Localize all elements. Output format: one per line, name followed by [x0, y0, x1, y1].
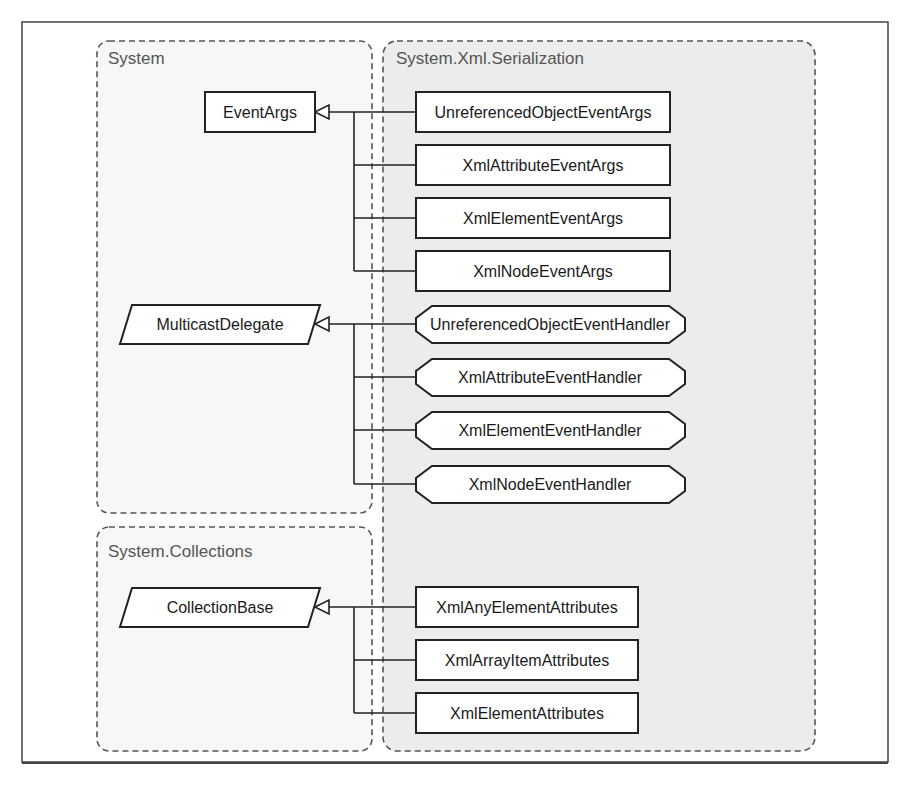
node-multicastdelegate[interactable]: MulticastDelegate [120, 305, 320, 344]
node-label: XmlAnyElementAttributes [436, 599, 617, 616]
node-unreferencedobjecteventhandler[interactable]: UnreferencedObjectEventHandler [416, 306, 685, 343]
node-label: MulticastDelegate [156, 316, 283, 333]
namespace-title-serialization: System.Xml.Serialization [396, 49, 584, 68]
node-xmlattributeeventhandler[interactable]: XmlAttributeEventHandler [416, 359, 685, 396]
namespace-title-system: System [108, 49, 165, 68]
node-label: EventArgs [223, 104, 297, 121]
node-xmlarrayitemattributes[interactable]: XmlArrayItemAttributes [416, 640, 638, 680]
node-label: XmlNodeEventHandler [469, 476, 632, 493]
node-label: XmlElementEventHandler [458, 422, 642, 439]
node-label: UnreferencedObjectEventArgs [435, 104, 652, 121]
node-label: UnreferencedObjectEventHandler [430, 316, 671, 333]
node-xmlnodeeventhandler[interactable]: XmlNodeEventHandler [416, 466, 685, 503]
node-xmlattributeeventargs[interactable]: XmlAttributeEventArgs [416, 145, 670, 185]
node-label: CollectionBase [167, 599, 274, 616]
node-xmlanyelementattributes[interactable]: XmlAnyElementAttributes [416, 587, 638, 627]
namespace-title-collections: System.Collections [108, 542, 253, 561]
node-unreferencedobjecteventargs[interactable]: UnreferencedObjectEventArgs [416, 92, 670, 132]
node-xmlelementeventargs[interactable]: XmlElementEventArgs [416, 198, 670, 238]
node-collectionbase[interactable]: CollectionBase [120, 588, 320, 627]
node-label: XmlAttributeEventHandler [458, 369, 643, 386]
node-xmlnodeeventargs[interactable]: XmlNodeEventArgs [416, 251, 670, 291]
namespace-system-collections: System.Collections [97, 527, 372, 751]
node-label: XmlNodeEventArgs [473, 263, 613, 280]
node-label: XmlElementEventArgs [463, 210, 623, 227]
node-eventargs[interactable]: EventArgs [205, 92, 315, 132]
node-label: XmlAttributeEventArgs [463, 157, 624, 174]
node-xmlelementeventhandler[interactable]: XmlElementEventHandler [416, 412, 685, 449]
node-xmlelementattributes[interactable]: XmlElementAttributes [416, 693, 638, 733]
class-diagram: System.Xml.Serialization System System.C… [0, 0, 910, 785]
node-label: XmlElementAttributes [450, 705, 604, 722]
node-label: XmlArrayItemAttributes [445, 652, 609, 669]
